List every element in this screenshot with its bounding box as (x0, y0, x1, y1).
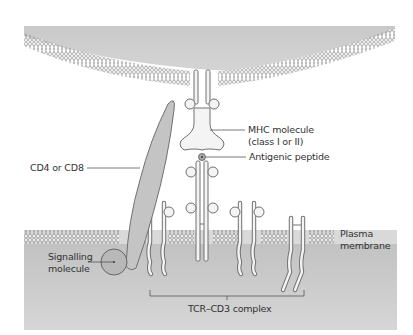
cd4-cd8-label: CD4 or CD8 (30, 162, 84, 174)
plasma-label-line2: membrane (340, 240, 390, 252)
mhc-label-line2: (class I or II) (248, 136, 314, 148)
signalling-label-line2: molecule (48, 263, 86, 275)
diagram-canvas: MHC molecule (class I or II) Antigenic p… (0, 0, 413, 335)
signalling-label-line1: Signalling (48, 251, 86, 263)
mhc-label-line1: MHC molecule (248, 124, 314, 136)
plasma-label-line1: Plasma (340, 228, 390, 240)
tcr-cd3-complex-label: TCR–CD3 complex (188, 303, 272, 315)
signalling-molecule-label: Signalling molecule (48, 251, 86, 274)
mhc-label: MHC molecule (class I or II) (248, 124, 314, 147)
antigenic-peptide-label: Antigenic peptide (249, 151, 329, 163)
plasma-membrane-label: Plasma membrane (340, 228, 390, 251)
